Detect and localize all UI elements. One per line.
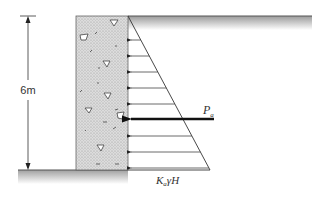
retaining-wall [76,16,128,170]
front-ground [18,170,128,184]
dimension-arrow-up-icon [26,16,31,23]
retaining-wall-diagram: Pa KaγH 6m [0,0,327,198]
pressure-arrows [131,40,209,168]
dimension-arrow-down-icon [26,163,31,170]
base-pressure-label: KaγH [155,174,180,188]
height-label: 6m [20,84,35,96]
backfill-surface [128,16,312,30]
pressure-triangle-hypotenuse [128,16,210,170]
height-dimension: 6m [20,16,36,170]
resultant-force-pa: Pa [131,103,214,119]
pressure-distribution [128,16,210,170]
resultant-label: Pa [202,103,214,119]
